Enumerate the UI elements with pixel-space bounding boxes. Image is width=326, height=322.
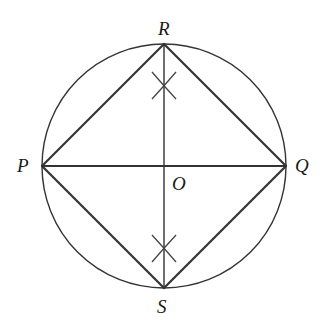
label-S: S	[157, 296, 167, 317]
label-Q: Q	[295, 155, 309, 176]
segment-PR	[42, 44, 164, 166]
label-P: P	[16, 155, 29, 176]
segment-RQ	[164, 44, 286, 166]
label-R: R	[157, 18, 170, 39]
geometry-diagram: R S P Q O	[0, 0, 326, 322]
label-O: O	[172, 173, 186, 194]
segment-SP	[42, 166, 164, 288]
